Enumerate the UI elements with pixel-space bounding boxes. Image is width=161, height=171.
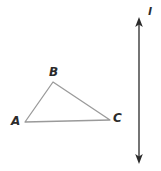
line-label-l: l — [148, 6, 152, 17]
vertex-label-c: C — [113, 112, 122, 124]
vertex-label-a: A — [11, 115, 20, 127]
line-l-group — [135, 17, 143, 164]
figure-canvas — [0, 0, 161, 171]
triangle-abc-shape — [25, 82, 110, 122]
geometry-figure: A B C l — [0, 0, 161, 171]
vertex-label-b: B — [49, 66, 58, 78]
